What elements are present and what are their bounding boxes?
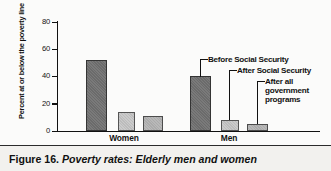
figure-caption-number: Figure 16. xyxy=(9,153,59,165)
callout-after-social-security: After Social Security xyxy=(237,66,311,75)
leader-line-before-horizontal xyxy=(200,59,208,60)
y-tick-mark-0 xyxy=(52,131,57,132)
bar-women-after-all-government-programs xyxy=(143,116,163,130)
callout-before-social-security: Before Social Security xyxy=(208,55,288,64)
y-tick-mark-40 xyxy=(52,76,57,77)
leader-line-allprograms-vertical xyxy=(257,81,258,124)
callout-after-all-programs-line3: programs xyxy=(265,95,300,104)
y-tick-label-40: 40 xyxy=(12,72,50,80)
bar-men-after-all-government-programs xyxy=(247,124,268,131)
y-tick-label-60: 60 xyxy=(12,45,50,53)
y-tick-label-0: 0 xyxy=(12,127,50,135)
figure-container: Percent at or below the poverty line 80 … xyxy=(0,0,331,171)
callout-after-all-programs-line2: government xyxy=(265,86,309,95)
y-tick-label-20: 20 xyxy=(12,100,50,108)
leader-line-after-horizontal xyxy=(229,70,237,71)
bar-men-before-social-security xyxy=(190,76,211,131)
x-group-label-women: Women xyxy=(94,133,154,143)
y-tick-mark-80 xyxy=(52,22,57,23)
leader-line-after-vertical xyxy=(229,70,230,120)
leader-line-allprograms-horizontal xyxy=(257,81,265,82)
callout-after-all-programs-line1: After all xyxy=(265,77,293,86)
leader-line-before-vertical xyxy=(200,59,201,77)
y-tick-mark-20 xyxy=(52,103,57,104)
y-tick-mark-60 xyxy=(52,49,57,50)
x-group-label-men: Men xyxy=(199,133,259,143)
bar-women-after-social-security xyxy=(118,112,135,131)
y-axis-line xyxy=(57,21,58,132)
figure-caption-title: Poverty rates: Elderly men and women xyxy=(59,153,257,165)
figure-caption-bar: Figure 16. Poverty rates: Elderly men an… xyxy=(0,145,331,171)
x-axis-line xyxy=(57,131,320,132)
bar-women-before-social-security xyxy=(86,60,107,131)
y-tick-label-80: 80 xyxy=(12,18,50,26)
chart-plot-area: Percent at or below the poverty line 80 … xyxy=(0,0,331,145)
bar-men-after-social-security xyxy=(221,120,239,130)
figure-caption: Figure 16. Poverty rates: Elderly men an… xyxy=(9,152,257,166)
